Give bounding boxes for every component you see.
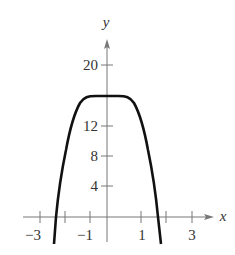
x-tick-label: −3 — [25, 227, 41, 243]
y-tick-label: 20 — [83, 57, 98, 73]
plot-svg: −3 −1 1 3 x 20 12 8 4 y — [0, 0, 235, 255]
x-tick-label: 1 — [138, 227, 146, 243]
y-tick-label: 8 — [91, 148, 99, 164]
y-axis-label: y — [101, 14, 110, 30]
x-axis-label: x — [219, 208, 227, 224]
y-axis: 20 12 8 4 y — [83, 14, 113, 242]
function-graph: −3 −1 1 3 x 20 12 8 4 y — [0, 0, 235, 255]
y-tick-label: 12 — [83, 118, 98, 134]
x-tick-label: 3 — [188, 227, 196, 243]
x-tick-label: −1 — [77, 227, 93, 243]
y-tick-label: 4 — [91, 178, 99, 194]
